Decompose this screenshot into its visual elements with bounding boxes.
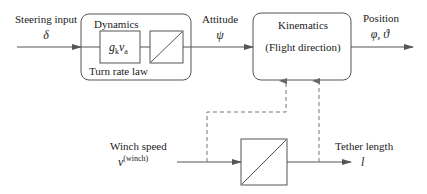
turn-rate-law-label: Turn rate law [89,66,148,77]
position-symbol: φ, ϑ [371,28,390,40]
dynamics-title: Dynamics [94,19,139,30]
winch-speed-feedback-dashed [207,81,286,162]
kinematics-title: Kinematics [278,20,328,31]
gain-label: gkva [109,41,128,56]
steering-input-label: Steering input [15,14,77,25]
winch-speed-label: Winch speed [110,141,167,152]
steering-input-symbol: δ [43,29,49,41]
attitude-symbol: ψ [216,29,223,41]
attitude-label: Attitude [202,14,238,25]
tether-length-label: Tether length [335,141,393,152]
kinematics-subtitle: (Flight direction) [265,42,340,53]
winch-speed-symbol: v(winch) [118,155,148,168]
tether-length-symbol: l [361,156,364,168]
position-label: Position [363,13,399,24]
